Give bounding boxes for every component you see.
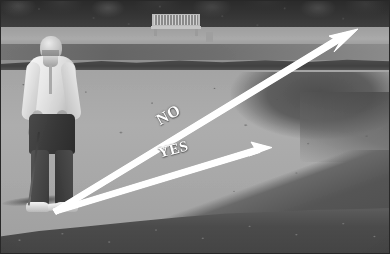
golf-bunker-photo: NO YES bbox=[0, 0, 390, 254]
direction-arrows bbox=[0, 0, 390, 254]
no-arrow bbox=[53, 29, 358, 215]
